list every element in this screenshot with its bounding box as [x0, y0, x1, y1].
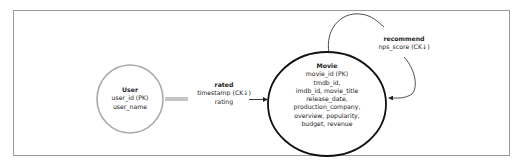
rated-relationship-title: rated	[194, 81, 254, 89]
movie-attribute: tmdb_id,	[287, 79, 367, 87]
movie-attribute: release_date,	[287, 95, 367, 103]
recommend-attribute: nps_score (CK↓)	[371, 43, 437, 51]
rated-attribute: timestamp (CK↓)	[194, 89, 254, 97]
movie-attribute: budget, revenue	[287, 120, 367, 128]
user-entity[interactable]: User user_id (PK) user_name	[100, 86, 160, 111]
movie-attribute: production_company,	[287, 103, 367, 111]
diagram-edges	[0, 0, 522, 167]
recommend-relationship-title: recommend	[371, 35, 437, 43]
movie-entity[interactable]: Movie movie_id (PK) tmdb_id, imdb_id, mo…	[287, 62, 367, 128]
movie-attribute: imdb_id, movie_title	[287, 87, 367, 95]
movie-attribute: movie_id (PK)	[287, 70, 367, 78]
user-attribute: user_name	[100, 103, 160, 111]
recommend-relationship[interactable]: recommend nps_score (CK↓)	[371, 35, 437, 52]
rated-attribute: rating	[194, 98, 254, 106]
movie-attribute: overview, popularity,	[287, 112, 367, 120]
user-entity-title: User	[100, 86, 160, 94]
user-attribute: user_id (PK)	[100, 94, 160, 102]
rated-relationship[interactable]: rated timestamp (CK↓) rating	[194, 81, 254, 106]
movie-entity-title: Movie	[287, 62, 367, 70]
